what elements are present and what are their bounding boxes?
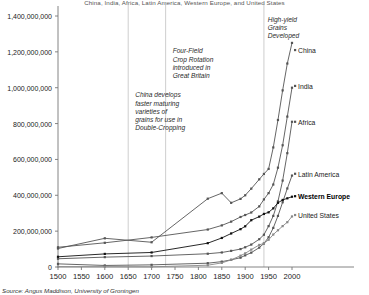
series-marker — [263, 213, 265, 215]
series-marker — [277, 215, 279, 217]
series-label-marker — [294, 121, 296, 123]
series-marker — [207, 228, 209, 230]
series-marker — [151, 255, 153, 257]
series-marker — [282, 144, 284, 146]
series-marker — [268, 192, 270, 194]
annotation-line: introduced in — [173, 64, 214, 72]
series-marker — [244, 214, 246, 216]
series-marker — [57, 256, 59, 258]
chart-plot-area — [0, 0, 369, 295]
annotation-line: Double-Cropping — [135, 124, 185, 132]
x-tick-label: 1700 — [143, 272, 160, 281]
series-marker — [239, 216, 241, 218]
series-marker — [239, 257, 241, 259]
series-marker — [250, 243, 252, 245]
series-label-india: India — [298, 82, 313, 89]
series-marker — [221, 262, 223, 264]
series-marker — [57, 266, 59, 268]
series-marker — [272, 146, 274, 148]
series-marker — [244, 246, 246, 248]
series-marker — [263, 173, 265, 175]
series-marker — [291, 87, 293, 89]
series-label-western-europe: Western Europe — [298, 193, 350, 200]
series-marker — [286, 197, 288, 199]
chart-source-note: Source: Angus Maddison, University of Gr… — [2, 287, 139, 294]
series-marker — [57, 263, 59, 265]
series-marker — [221, 224, 223, 226]
series-marker — [230, 250, 232, 252]
annotation-line: Developed — [268, 32, 300, 40]
x-tick-label: 1500 — [50, 272, 67, 281]
series-marker — [250, 188, 252, 190]
series-marker — [291, 121, 293, 123]
x-tick-label: 2000 — [284, 272, 301, 281]
series-marker — [277, 229, 279, 231]
series-marker — [221, 192, 223, 194]
series-line-africa — [58, 122, 292, 259]
series-marker — [207, 262, 209, 264]
series-label-china: China — [298, 47, 316, 54]
series-marker — [244, 225, 246, 227]
series-marker — [239, 198, 241, 200]
x-tick-label: 1750 — [167, 272, 184, 281]
series-marker — [151, 241, 153, 243]
annotation-high-yield-grains: High-yieldGrainsDeveloped — [268, 16, 300, 41]
x-tick-label: 1850 — [213, 272, 230, 281]
x-tick-label: 1900 — [237, 272, 254, 281]
series-marker — [151, 264, 153, 266]
series-marker — [258, 205, 260, 207]
series-marker — [268, 239, 270, 241]
series-marker — [263, 242, 265, 244]
series-marker — [286, 221, 288, 223]
series-marker — [250, 211, 252, 213]
series-marker — [104, 256, 106, 258]
series-marker — [282, 89, 284, 91]
series-label-marker — [294, 85, 296, 87]
series-marker — [277, 119, 279, 121]
series-marker — [282, 201, 284, 203]
series-marker — [57, 246, 59, 248]
series-label-united-states: United States — [298, 212, 339, 219]
series-marker — [250, 249, 252, 251]
annotation-line: Grains — [268, 24, 300, 32]
series-marker — [268, 236, 270, 238]
series-marker — [291, 215, 293, 217]
series-marker — [272, 233, 274, 235]
annotation-line: faster maturing — [135, 100, 185, 108]
series-marker — [263, 198, 265, 200]
series-marker — [207, 198, 209, 200]
series-marker — [263, 234, 265, 236]
series-marker — [207, 264, 209, 266]
series-marker — [272, 183, 274, 185]
y-tick-label: 400,000,000 — [0, 192, 52, 199]
series-label-marker — [294, 195, 296, 197]
series-marker — [277, 167, 279, 169]
series-marker — [230, 232, 232, 234]
series-marker — [291, 174, 293, 176]
series-marker — [104, 237, 106, 239]
annotation-line: Crop Rotation — [173, 56, 214, 64]
series-marker — [258, 247, 260, 249]
annotation-line: China develops — [135, 91, 185, 99]
series-label-marker — [294, 214, 296, 216]
series-marker — [277, 202, 279, 204]
series-marker — [207, 253, 209, 255]
series-marker — [244, 194, 246, 196]
series-marker — [104, 253, 106, 255]
annotation-line: High-yield — [268, 16, 300, 24]
series-marker — [286, 187, 288, 189]
series-marker — [258, 244, 260, 246]
series-marker — [244, 252, 246, 254]
series-marker — [151, 251, 153, 253]
y-tick-label: 200,000,000 — [0, 228, 52, 235]
series-marker — [268, 211, 270, 213]
series-label-latin-america: Latin America — [298, 170, 339, 177]
series-label-africa: Africa — [298, 118, 315, 125]
series-line-latin-america — [58, 176, 292, 266]
series-line-western-europe — [58, 197, 292, 257]
y-tick-label: 600,000,000 — [0, 156, 52, 163]
y-tick-label: 0 — [0, 264, 52, 271]
annotation-line: Four-Field — [173, 47, 214, 55]
x-tick-label: 1650 — [120, 272, 137, 281]
y-tick-label: 1,200,000,000 — [0, 48, 52, 55]
